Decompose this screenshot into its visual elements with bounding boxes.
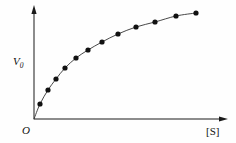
data-point xyxy=(73,55,78,60)
figure-canvas: V0 [S] O xyxy=(0,0,236,143)
data-point xyxy=(133,24,138,29)
data-point xyxy=(45,87,50,92)
y-axis-symbol: V xyxy=(13,55,20,67)
data-point xyxy=(115,31,120,36)
origin-label: O xyxy=(22,125,30,136)
data-point xyxy=(62,65,67,70)
data-point xyxy=(173,13,178,18)
y-axis-label: V0 xyxy=(13,56,23,70)
data-point xyxy=(37,101,42,106)
data-point xyxy=(193,10,198,15)
data-point xyxy=(85,47,90,52)
y-axis-subscript: 0 xyxy=(20,61,24,70)
data-point xyxy=(152,19,157,24)
x-axis-label: [S] xyxy=(206,126,219,137)
plot-background xyxy=(0,0,236,143)
data-point xyxy=(99,39,104,44)
plot-area xyxy=(0,0,236,143)
data-point xyxy=(53,76,58,81)
